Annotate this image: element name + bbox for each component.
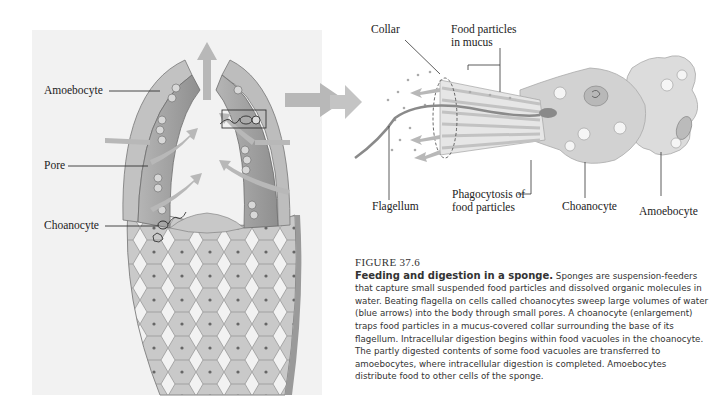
label-food-particles-1: Food particles xyxy=(451,23,516,36)
label-collar: Collar xyxy=(371,23,400,36)
label-phagocytosis-2: food particles xyxy=(452,201,515,214)
choanocyte-enlargement xyxy=(330,56,698,164)
caption-text: Feeding and digestion in a sponge. Spong… xyxy=(355,270,710,383)
label-choanocyte: Choanocyte xyxy=(44,219,99,232)
label-phagocytosis-1: Phagocytosis of xyxy=(452,188,525,201)
nucleus xyxy=(584,86,608,106)
sponge-body-hex-surface xyxy=(127,205,301,395)
caption-body: Sponges are suspension-feeders that capt… xyxy=(355,271,708,382)
label-food-particles-2: in mucus xyxy=(451,36,493,49)
caption-title: Feeding and digestion in a sponge. xyxy=(355,270,553,281)
figure-number: FIGURE 37.6 xyxy=(355,256,710,269)
label-amoebocyte-enlarged: Amoebocyte xyxy=(639,205,698,218)
label-amoebocyte: Amoebocyte xyxy=(44,84,103,97)
label-choanocyte-enlarged: Choanocyte xyxy=(562,200,617,213)
figure-caption: FIGURE 37.6 Feeding and digestion in a s… xyxy=(355,256,710,383)
spongocoel-floor xyxy=(170,213,244,233)
label-flagellum: Flagellum xyxy=(372,200,419,213)
label-pore: Pore xyxy=(44,159,65,172)
